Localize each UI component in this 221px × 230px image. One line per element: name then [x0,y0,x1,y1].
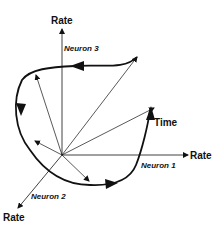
neuron3-label: Neuron 3 [64,44,99,53]
arrowhead-top [70,61,84,71]
neural-trajectory-diagram: Rate Neuron 3 Time Rate Neuron 1 Neuron … [0,0,221,230]
trajectory-curve [16,57,150,185]
vector-1 [36,75,62,155]
neuron2-axis-label: Rate [3,212,25,223]
neuron2-label: Neuron 2 [31,192,66,201]
arrowhead-bottom [105,179,118,189]
neuron1-axis-label: Rate [190,150,212,161]
neuron1-label: Neuron 1 [141,161,176,170]
neuron3-axis-label: Rate [51,15,73,26]
vector-2 [62,57,137,155]
vector-4 [62,155,89,181]
time-axis-label: Time [154,117,178,128]
arrowhead-left [16,103,26,116]
time-axis-vector [62,108,154,155]
